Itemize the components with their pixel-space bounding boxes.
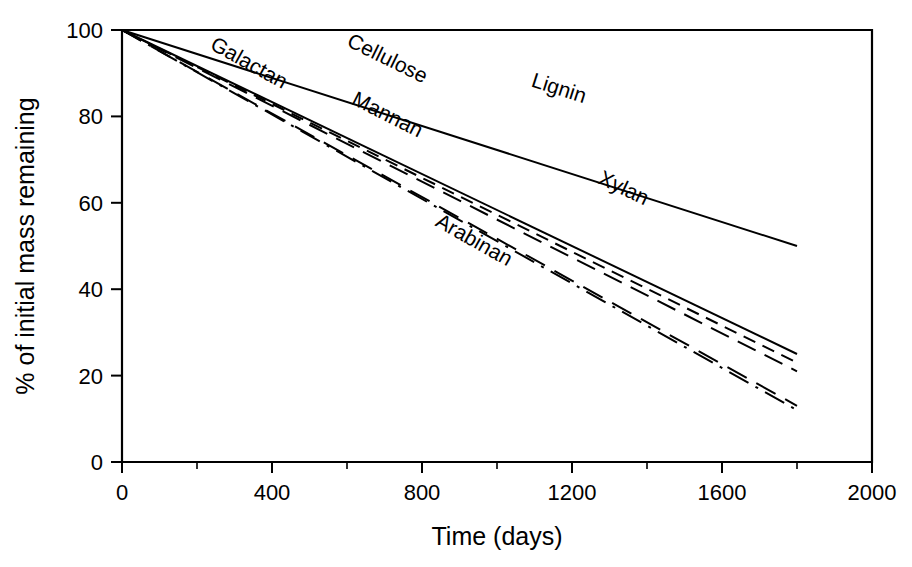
series-line-cellulose [122, 30, 797, 363]
series-line-lignin [122, 30, 797, 246]
x-axis-ticks [122, 462, 872, 473]
chart-svg: 020406080100 0400800120016002000 LigninX… [0, 0, 912, 567]
y-tick-label-60: 60 [79, 191, 103, 216]
y-axis-tick-labels: 020406080100 [66, 18, 103, 475]
y-axis-ticks [111, 30, 122, 462]
x-tick-label-1600: 1600 [698, 480, 747, 505]
x-axis-title: Time (days) [431, 522, 562, 550]
series-line-xylan [122, 30, 797, 354]
x-tick-label-800: 800 [404, 480, 441, 505]
y-tick-label-0: 0 [91, 450, 103, 475]
x-tick-label-2000: 2000 [848, 480, 897, 505]
x-axis-tick-labels: 0400800120016002000 [116, 480, 897, 505]
y-tick-label-20: 20 [79, 364, 103, 389]
y-tick-label-100: 100 [66, 18, 103, 43]
y-tick-label-40: 40 [79, 277, 103, 302]
decomposition-chart: 020406080100 0400800120016002000 LigninX… [0, 0, 912, 567]
y-tick-label-80: 80 [79, 104, 103, 129]
series-label-group: LigninXylanCelluloseMannanGalactanArabin… [207, 28, 653, 270]
x-tick-label-0: 0 [116, 480, 128, 505]
x-tick-label-1200: 1200 [548, 480, 597, 505]
x-tick-label-400: 400 [254, 480, 291, 505]
series-label-cellulose: Cellulose [344, 28, 432, 87]
series-label-xylan: Xylan [595, 166, 652, 209]
series-line-mannan [122, 30, 797, 371]
series-label-lignin: Lignin [529, 68, 589, 107]
y-axis-title: % of initial mass remaining [11, 97, 39, 394]
series-label-mannan: Mannan [349, 87, 427, 142]
